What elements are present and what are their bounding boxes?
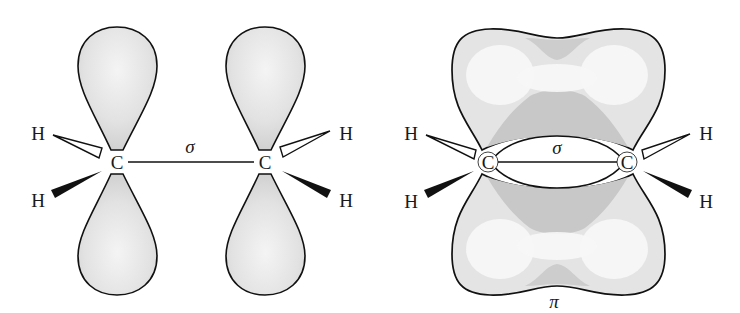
hydrogen-atom: H bbox=[339, 123, 353, 144]
hydrogen-atom: H bbox=[699, 191, 713, 212]
open-wedge-bond bbox=[280, 131, 330, 157]
hydrogen-atom: H bbox=[31, 190, 45, 211]
upper-lobe bbox=[78, 27, 157, 150]
hydrogen-atom: H bbox=[31, 123, 45, 144]
hydrogen-atom: H bbox=[339, 190, 353, 211]
carbon-atom-left: C bbox=[111, 152, 124, 173]
solid-wedge-bond bbox=[51, 171, 102, 198]
lower-lobe bbox=[226, 174, 305, 295]
pi-label: π bbox=[549, 291, 559, 312]
carbon-atom-left: C bbox=[482, 152, 495, 173]
upper-lobe bbox=[226, 27, 305, 150]
solid-wedge-bond bbox=[282, 171, 331, 198]
p-orbitals-panel: σ C C H H H H bbox=[31, 27, 353, 295]
carbon-atom-right: C bbox=[621, 152, 634, 173]
pi-bond-panel: σ C C H H H H π bbox=[404, 29, 713, 312]
sigma-label: σ bbox=[552, 137, 562, 158]
orbital-diagram: σ C C H H H H bbox=[0, 0, 740, 313]
carbon-atom-right: C bbox=[259, 152, 272, 173]
pi-lobe-lower bbox=[452, 174, 665, 295]
open-wedge-bond bbox=[53, 135, 102, 158]
sigma-label: σ bbox=[185, 136, 195, 157]
pi-lobe-upper bbox=[452, 29, 665, 150]
hydrogen-atom: H bbox=[404, 123, 418, 144]
hydrogen-atom: H bbox=[699, 123, 713, 144]
open-wedge-bond bbox=[642, 134, 690, 159]
hydrogen-atom: H bbox=[404, 191, 418, 212]
solid-wedge-bond bbox=[424, 171, 474, 198]
lower-lobe bbox=[78, 174, 157, 295]
open-wedge-bond bbox=[426, 135, 476, 159]
solid-wedge-bond bbox=[643, 171, 692, 198]
